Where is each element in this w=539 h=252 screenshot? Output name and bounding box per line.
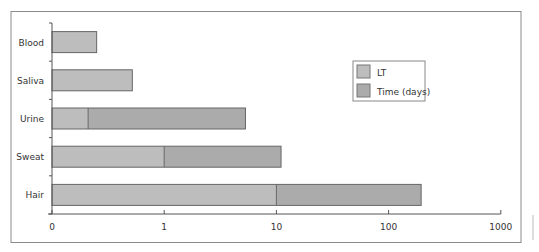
- y-tick-label-blood: Blood: [19, 38, 44, 48]
- y-tick-label-sweat: Sweat: [16, 152, 44, 162]
- bar-segment-time: [164, 146, 281, 167]
- legend-swatch-time: [357, 84, 370, 97]
- bar-segment-time: [88, 108, 245, 129]
- bar-sweat: [52, 146, 281, 167]
- x-tick-label: 0: [49, 222, 55, 232]
- x-tick-label: 10: [271, 222, 283, 232]
- bar-segment-lt: [52, 184, 276, 205]
- y-tick-label-saliva: Saliva: [17, 76, 44, 86]
- x-tick-label: 100: [380, 222, 397, 232]
- bar-saliva: [52, 70, 132, 91]
- bar-hair: [52, 184, 421, 205]
- bar-segment-time: [276, 184, 421, 205]
- legend-swatch-lt: [357, 65, 370, 78]
- y-tick-label-hair: Hair: [26, 190, 45, 200]
- bar-segment-lt: [52, 32, 97, 53]
- chart-canvas: BloodSalivaUrineSweatHair 01101001000 LT…: [0, 0, 539, 252]
- bar-blood: [52, 32, 97, 53]
- legend: LT Time (days): [353, 61, 430, 101]
- bar-segment-lt: [52, 146, 164, 167]
- legend-label-time: Time (days): [376, 87, 430, 97]
- y-tick-label-urine: Urine: [20, 114, 44, 124]
- x-tick-label: 1000: [489, 222, 512, 232]
- legend-label-lt: LT: [377, 68, 387, 78]
- bar-segment-lt: [52, 108, 88, 129]
- bar-urine: [52, 108, 245, 129]
- chart: BloodSalivaUrineSweatHair 01101001000 LT…: [0, 0, 539, 252]
- bar-segment-lt: [52, 70, 132, 91]
- x-tick-label: 1: [161, 222, 167, 232]
